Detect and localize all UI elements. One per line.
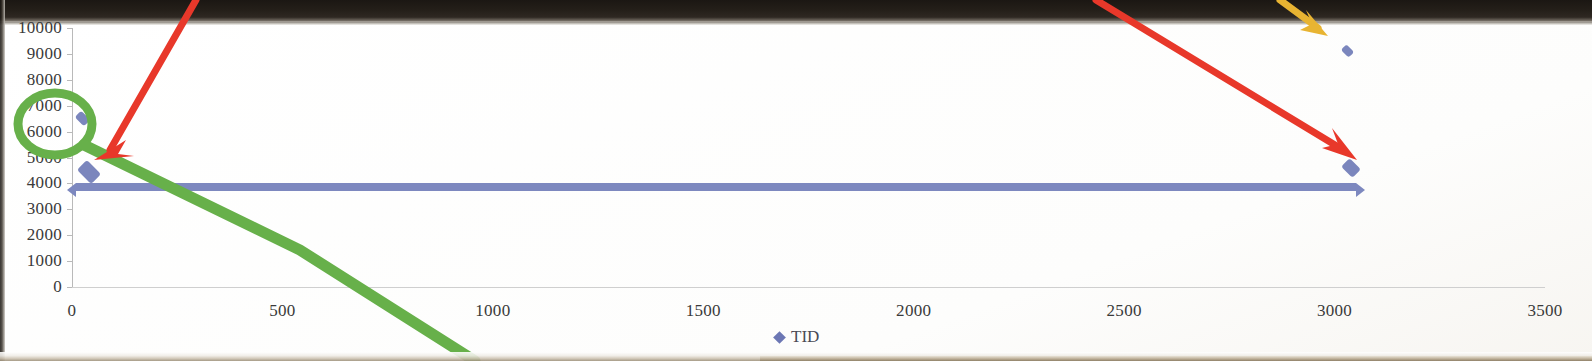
- x-axis-tick-label: 500: [237, 302, 327, 319]
- y-axis-tick-mark: [67, 54, 72, 55]
- x-axis-tick-label: 3500: [1500, 302, 1590, 319]
- y-axis-line: [72, 28, 73, 287]
- scan-edge-bottom-right: [760, 356, 1592, 361]
- y-axis-tick-mark: [67, 80, 72, 81]
- y-axis-tick-mark: [67, 158, 72, 159]
- chart-legend: TID: [775, 327, 819, 347]
- y-axis-tick-mark: [67, 28, 72, 29]
- data-point-outlier: [75, 111, 91, 127]
- x-axis-tick-label: 3000: [1290, 302, 1380, 319]
- y-axis-tick-mark: [67, 235, 72, 236]
- scatter-chart: 0100020003000400050006000700080009000100…: [0, 22, 1592, 361]
- data-point-outlier: [1340, 44, 1353, 57]
- y-axis-tick-label: 2000: [27, 226, 62, 243]
- data-point-outlier: [77, 160, 101, 184]
- y-axis-tick-label: 4000: [27, 174, 62, 191]
- x-axis-tick-label: 2500: [1079, 302, 1169, 319]
- y-axis-tick-mark: [67, 132, 72, 133]
- legend-diamond-icon: [773, 331, 786, 344]
- y-axis-tick-label: 3000: [27, 200, 62, 217]
- y-axis-tick-label: 1000: [27, 252, 62, 269]
- y-axis-tick-mark: [67, 261, 72, 262]
- scanned-chart-page: 0100020003000400050006000700080009000100…: [0, 0, 1592, 361]
- y-axis-tick-label: 6000: [27, 123, 62, 140]
- x-axis-tick-label: 1500: [658, 302, 748, 319]
- y-axis-tick-label: 5000: [27, 149, 62, 166]
- scan-shadow-top: [0, 0, 1592, 22]
- x-axis-line: [72, 287, 1545, 288]
- y-axis-tick-label: 8000: [27, 71, 62, 88]
- y-axis-tick-mark: [67, 106, 72, 107]
- x-axis-tick-label: 0: [27, 302, 117, 319]
- y-axis-tick-label: 9000: [27, 45, 62, 62]
- y-axis-tick-label: 7000: [27, 97, 62, 114]
- y-axis-tick-mark: [67, 287, 72, 288]
- y-axis-tick-mark: [67, 209, 72, 210]
- x-axis-tick-label: 1000: [448, 302, 538, 319]
- y-axis-tick-label: 10000: [18, 19, 62, 36]
- data-point-outlier: [1341, 158, 1361, 178]
- legend-label-tid: TID: [791, 327, 819, 347]
- x-axis-tick-label: 2000: [869, 302, 959, 319]
- dense-data-band: [76, 183, 1355, 191]
- y-axis-tick-label: 0: [53, 278, 62, 295]
